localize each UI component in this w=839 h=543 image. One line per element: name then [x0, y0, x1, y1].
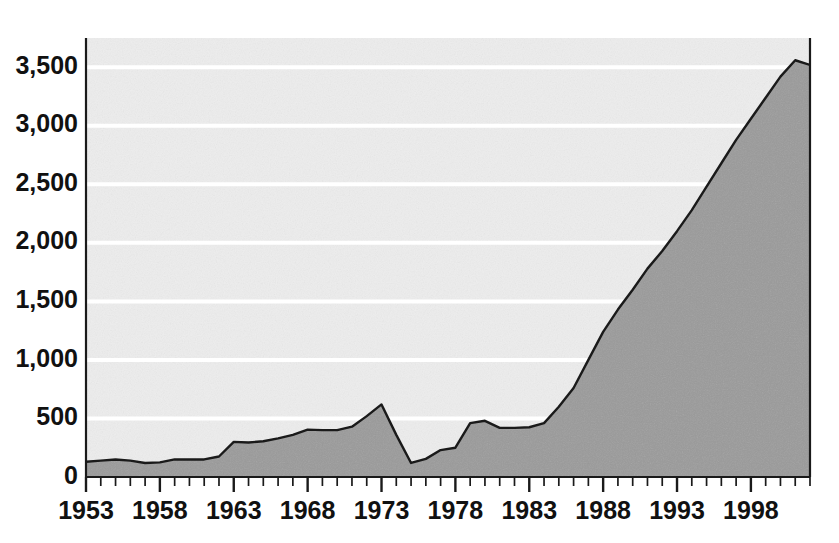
y-tick-label: 1,500 — [15, 285, 78, 313]
chart-container: 05001,0001,5002,0002,5003,0003,500 19531… — [0, 0, 839, 543]
area-chart: 05001,0001,5002,0002,5003,0003,500 19531… — [0, 0, 839, 543]
x-tick-label: 1988 — [575, 496, 631, 524]
y-tick-label: 3,000 — [15, 109, 78, 137]
x-tick-label: 1978 — [428, 496, 484, 524]
x-tick-label: 1998 — [723, 496, 779, 524]
y-tick-label: 1,000 — [15, 344, 78, 372]
y-tick-label: 0 — [64, 461, 78, 489]
x-tick-label: 1963 — [206, 496, 262, 524]
y-tick-label: 2,000 — [15, 226, 78, 254]
x-tick-label: 1993 — [649, 496, 705, 524]
x-tick-label: 1968 — [280, 496, 336, 524]
x-tick-label: 1958 — [132, 496, 188, 524]
y-tick-label: 500 — [36, 402, 78, 430]
y-tick-label: 3,500 — [15, 51, 78, 79]
x-tick-label: 1953 — [58, 496, 114, 524]
x-tick-label: 1973 — [354, 496, 410, 524]
x-tick-label: 1983 — [501, 496, 557, 524]
y-tick-label: 2,500 — [15, 168, 78, 196]
